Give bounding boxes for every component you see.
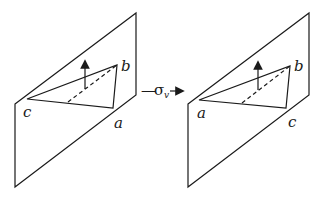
hidden-edge-before: [68, 65, 117, 102]
label-a-after: a: [197, 104, 206, 122]
label-a-before: a: [114, 114, 123, 132]
operation-label: — σ v: [141, 81, 180, 100]
before-panel: c b a: [15, 13, 136, 187]
operation-symbol: σ: [154, 81, 164, 99]
label-c-before: c: [23, 103, 32, 121]
label-c-after: c: [288, 113, 297, 131]
after-panel: a b c: [188, 13, 309, 187]
label-b-after: b: [294, 57, 304, 75]
operation-subscript: v: [164, 90, 169, 100]
hidden-edge-after: [242, 66, 290, 103]
mirror-plane-after: [188, 13, 309, 187]
symmetry-diagram: c b a — σ v a b c: [0, 0, 322, 201]
label-b-before: b: [121, 57, 131, 75]
triangle-before: [27, 65, 117, 108]
